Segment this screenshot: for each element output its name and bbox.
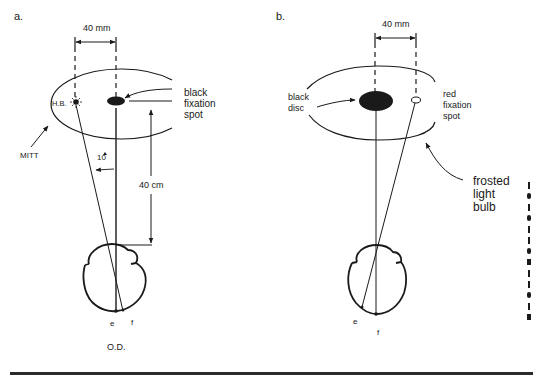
disc-arrow-icon <box>317 100 355 107</box>
red-fixation-spot <box>412 97 421 103</box>
point-f-label: f <box>131 318 134 327</box>
point-e-label: e <box>353 317 358 326</box>
panel-b: b. 40 mm black disc red fixation spot fr… <box>276 10 510 337</box>
fixation-label-2: fixation <box>184 98 216 109</box>
red-fixation-label-2: fixation <box>443 100 472 110</box>
bulb-label-2: light <box>473 187 496 201</box>
bulb-label-3: bulb <box>473 200 496 214</box>
panel-a-label: a. <box>14 10 23 22</box>
eye-outline-a <box>83 244 145 311</box>
red-fixation-label-1: red <box>443 89 456 99</box>
mitt-arrow-icon <box>31 126 48 147</box>
secondary-sight-line <box>362 103 415 307</box>
angle-arrow-icon <box>96 169 114 170</box>
bottom-rule <box>10 372 533 375</box>
field-ellipse-bottom <box>309 115 435 140</box>
panel-b-dimension-label: 40 mm <box>382 19 410 29</box>
distance-label: 40 cm <box>139 180 164 190</box>
panel-b-label: b. <box>276 10 285 22</box>
fixation-label-3: spot <box>184 109 203 120</box>
bulb-label-1: frosted <box>473 174 510 188</box>
eye-outline-b <box>348 245 406 314</box>
panel-a-dimension-label: 40 mm <box>83 23 111 33</box>
figure: a. 40 mm H.B. black fixation spot <box>0 0 533 378</box>
panel-a: a. 40 mm H.B. black fixation spot <box>14 10 216 352</box>
disc-label-1: black <box>288 92 310 102</box>
truncated-caption-column <box>527 182 531 320</box>
disc-label-2: disc <box>288 103 305 113</box>
point-f-label: f <box>377 328 380 337</box>
hb-label: H.B. <box>52 99 67 108</box>
mitt-label: MITT <box>20 151 39 160</box>
bulb-arrow-icon <box>426 143 463 180</box>
fixation-pointer-arrow-icon <box>125 89 172 98</box>
field-ellipse-top <box>307 66 435 89</box>
black-fixation-spot <box>107 97 125 106</box>
eye-label: O.D. <box>107 342 126 352</box>
fixation-label-1: black <box>184 87 208 98</box>
red-fixation-label-3: spot <box>443 111 461 121</box>
point-e-label: e <box>110 319 115 328</box>
